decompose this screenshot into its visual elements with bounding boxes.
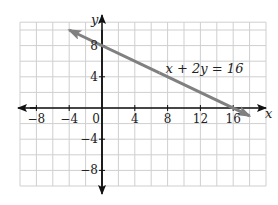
origin-label: 0 — [92, 112, 100, 126]
x-axis-label: x — [265, 106, 273, 121]
x-tick-label: −4 — [60, 112, 78, 126]
x-tick-label: 12 — [193, 112, 208, 126]
y-tick-label: 8 — [90, 39, 98, 53]
x-tick-label: 4 — [131, 112, 139, 126]
equation-label: x + 2y = 16 — [166, 61, 244, 76]
x-tick-label: 8 — [164, 112, 172, 126]
x-tick-label: −8 — [28, 112, 46, 126]
graph-line — [69, 30, 159, 73]
x-tick-label: 16 — [226, 112, 241, 126]
grid-lines — [20, 22, 266, 186]
coordinate-plane: −8−4481216084−4−8 x y x + 2y = 16 — [0, 0, 278, 205]
y-axis-label: y — [90, 12, 99, 27]
y-tick-label: −4 — [80, 132, 98, 146]
y-tick-label: −8 — [80, 163, 98, 177]
graph-line — [159, 73, 249, 116]
y-tick-label: 4 — [90, 70, 98, 84]
